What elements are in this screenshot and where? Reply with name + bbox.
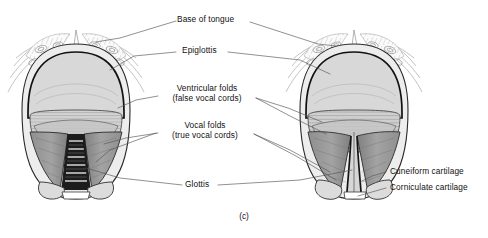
- figure-caption: (c): [0, 211, 488, 221]
- label-ventricular-folds: Ventricular folds (false vocal cords): [160, 84, 254, 103]
- label-vocal-folds: Vocal folds (true vocal cords): [158, 121, 252, 140]
- page-edge-artifact: [6, 231, 206, 238]
- larynx-figure: Base of tongue Epiglottis Ventricular fo…: [0, 0, 488, 238]
- label-glottis: Glottis: [185, 180, 209, 190]
- label-epiglottis: Epiglottis: [182, 46, 217, 56]
- label-ventricular-folds-line2: (false vocal cords): [160, 94, 254, 104]
- label-cuneiform-cartilage: Cuneiform cartilage: [390, 167, 464, 177]
- label-corniculate-cartilage: Corniculate cartilage: [390, 183, 468, 193]
- label-base-of-tongue: Base of tongue: [177, 15, 234, 25]
- larynx-illustration: [0, 0, 488, 238]
- label-vocal-folds-line2: (true vocal cords): [158, 131, 252, 141]
